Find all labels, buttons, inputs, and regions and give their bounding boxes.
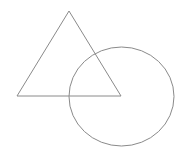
diagram-canvas: [0, 0, 189, 156]
triangle-shape: [17, 11, 121, 96]
